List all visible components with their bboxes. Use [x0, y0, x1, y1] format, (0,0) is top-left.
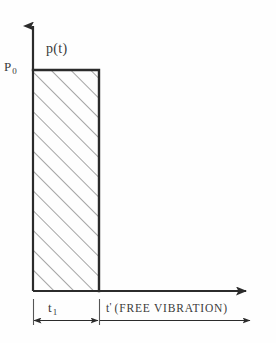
- duration-label-subscript: 1: [53, 307, 58, 317]
- impulse-load-figure: P0 p(t) t1 t'(FREE VIBRATION): [0, 0, 276, 343]
- amplitude-label: P0: [4, 60, 17, 76]
- free-vibration-label: t'(FREE VIBRATION): [106, 301, 228, 315]
- function-label: p(t): [46, 42, 67, 56]
- duration-label: t1: [48, 301, 57, 317]
- figure-canvas: [0, 0, 276, 343]
- pulse-hatch-fill: [34, 71, 98, 290]
- amplitude-label-subscript: 0: [12, 66, 17, 76]
- duration-label-base: t: [48, 300, 52, 315]
- free-vibration-paren: (FREE VIBRATION): [115, 302, 228, 314]
- free-vibration-prime: ': [109, 300, 111, 312]
- amplitude-label-base: P: [4, 59, 12, 74]
